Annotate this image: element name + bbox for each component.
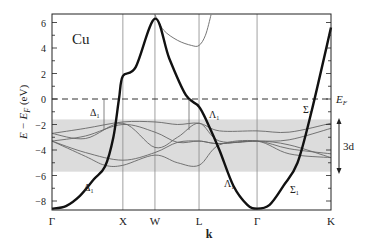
y-tick-label: −6 — [35, 171, 46, 182]
x-tick-label: Γ — [254, 215, 260, 227]
fermi-label: EF — [335, 93, 348, 107]
lambda1-label-upper: Λ1 — [209, 109, 219, 121]
x-tick-label: Γ — [49, 215, 55, 227]
y-tick-label: −4 — [35, 145, 46, 156]
svg-text:E − EF (eV): E − EF (eV) — [17, 85, 32, 141]
sigma1-label-upper: Σ1 — [303, 104, 312, 116]
lambda1-label-lower: Λ1 — [224, 178, 234, 190]
sigma1-label-lower: Σ1 — [290, 184, 299, 196]
x-tick-label: K — [327, 215, 335, 227]
y-tick-label: 4 — [41, 43, 46, 54]
y-tick-label: 0 — [41, 94, 46, 105]
3d-arrow-down-icon — [337, 168, 342, 174]
y-tick-label: −8 — [35, 196, 46, 207]
y-tick-label: 6 — [41, 18, 46, 29]
y-tick-label: −2 — [35, 120, 46, 131]
3d-arrow-up-icon — [337, 118, 342, 124]
x-axis-label: k — [206, 227, 213, 241]
x-tick-label: X — [119, 215, 127, 227]
y-tick-label: 2 — [41, 69, 46, 80]
x-tick-label: W — [150, 215, 161, 227]
y-axis-label: E − EF (eV) — [17, 85, 32, 141]
3d-band-label: 3d — [343, 140, 355, 152]
x-axis-ticks: ΓXWLΓK — [49, 215, 335, 227]
x-tick-label: L — [196, 215, 203, 227]
chart-title: Cu — [72, 31, 90, 47]
band-structure-chart: −8−6−4−20246 ΓXWLΓK Cu E − EF (eV) k EF … — [0, 0, 368, 247]
delta1-label-lower: Δ1 — [84, 182, 93, 194]
delta1-label-upper: Δ1 — [90, 107, 99, 119]
